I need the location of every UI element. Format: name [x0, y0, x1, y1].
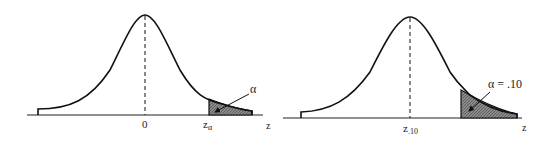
right-panel: α = .10 z.10 z [283, 17, 527, 136]
left-panel: α 0 zα z [27, 15, 271, 132]
left-alpha-label: α [250, 82, 257, 96]
left-mean-label: 0 [142, 118, 148, 130]
right-axis-label: z [522, 122, 527, 133]
right-alpha-label: α = .10 [488, 77, 522, 91]
left-axis-label: z [266, 120, 271, 131]
right-center-label: z.10 [403, 122, 418, 136]
left-critical-value-label: zα [203, 118, 213, 132]
normal-distribution-figure: α 0 zα z α = .10 z.10 z [0, 0, 551, 142]
